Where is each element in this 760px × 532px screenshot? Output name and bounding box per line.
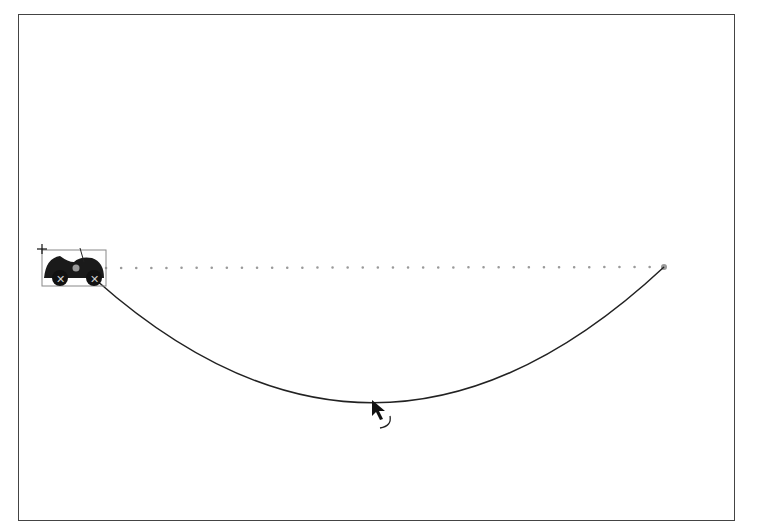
motion-path-scene: ✕ ✕: [0, 0, 760, 532]
rotate-cursor-icon: [372, 400, 390, 428]
car-sprite[interactable]: ✕ ✕: [42, 248, 106, 286]
crosshair-icon: [37, 244, 47, 254]
svg-text:✕: ✕: [56, 273, 65, 286]
registration-point-icon: [73, 265, 80, 272]
curved-motion-path[interactable]: [96, 267, 664, 403]
svg-text:✕: ✕: [90, 273, 99, 286]
straight-guide-line: [106, 267, 664, 268]
